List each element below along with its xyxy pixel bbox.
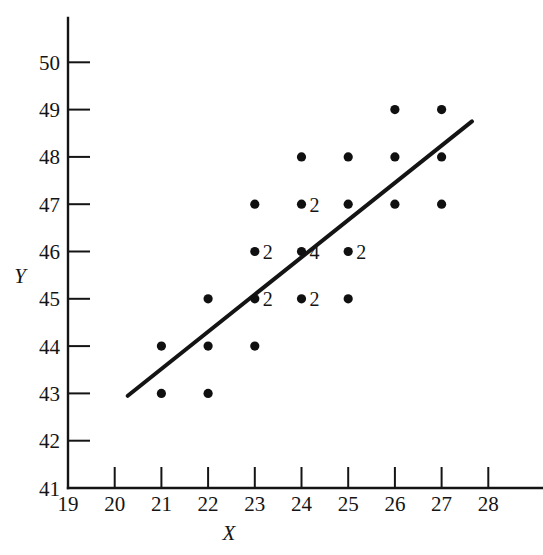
data-point (250, 342, 259, 351)
y-axis-ticks (68, 62, 90, 440)
point-count-label: 2 (263, 288, 273, 310)
y-tick-label-50: 50 (39, 51, 60, 75)
data-point (437, 200, 446, 209)
data-point (157, 342, 166, 351)
point-count-label: 4 (310, 241, 320, 263)
y-tick-label-48: 48 (39, 145, 60, 169)
x-tick-label-22: 22 (198, 492, 219, 516)
x-tick-label-26: 26 (384, 492, 405, 516)
data-point (250, 294, 259, 303)
point-count-label: 2 (310, 288, 320, 310)
data-point (297, 152, 306, 161)
x-tick-label-25: 25 (338, 492, 359, 516)
data-point (204, 294, 213, 303)
x-axis-tick-labels: 19202122232425262728 (58, 492, 499, 516)
x-tick-label-20: 20 (104, 492, 125, 516)
data-point (390, 200, 399, 209)
data-point (204, 342, 213, 351)
data-point (204, 389, 213, 398)
x-tick-label-19: 19 (58, 492, 79, 516)
plot-canvas: 41424344454647484950 1920212223242526272… (0, 0, 543, 555)
y-tick-label-45: 45 (39, 287, 60, 311)
x-tick-label-21: 21 (151, 492, 172, 516)
point-count-label: 2 (310, 194, 320, 216)
data-points-group (157, 105, 446, 398)
y-tick-label-43: 43 (39, 382, 60, 406)
scatter-plot-figure: 41424344454647484950 1920212223242526272… (0, 0, 543, 555)
y-axis-title: Y (14, 264, 28, 288)
y-tick-label-42: 42 (39, 429, 60, 453)
data-point (250, 200, 259, 209)
x-tick-label-28: 28 (478, 492, 499, 516)
data-point (390, 152, 399, 161)
data-point (344, 294, 353, 303)
regression-fit-line (128, 121, 472, 395)
data-point (390, 105, 399, 114)
data-point (157, 389, 166, 398)
data-point (344, 247, 353, 256)
x-tick-label-24: 24 (291, 492, 313, 516)
x-axis-ticks (115, 467, 489, 488)
x-axis-title: X (222, 521, 237, 545)
y-tick-label-47: 47 (39, 193, 60, 217)
data-point (297, 200, 306, 209)
y-tick-label-46: 46 (39, 240, 60, 264)
point-count-label: 2 (263, 241, 273, 263)
data-point (344, 200, 353, 209)
data-point (297, 247, 306, 256)
point-count-label: 2 (356, 241, 366, 263)
y-axis-tick-labels: 41424344454647484950 (39, 51, 61, 501)
data-point (344, 152, 353, 161)
data-point (297, 294, 306, 303)
y-tick-label-44: 44 (39, 335, 61, 359)
data-point (250, 247, 259, 256)
x-tick-label-27: 27 (431, 492, 452, 516)
data-point (437, 105, 446, 114)
y-tick-label-49: 49 (39, 98, 60, 122)
x-tick-label-23: 23 (244, 492, 265, 516)
data-point (437, 152, 446, 161)
